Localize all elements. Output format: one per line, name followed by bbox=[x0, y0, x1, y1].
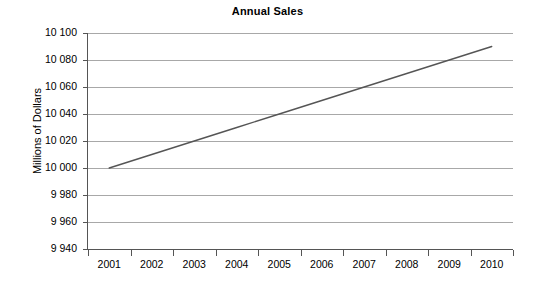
x-tick-6 bbox=[343, 250, 344, 256]
y-axis-label: 10 060 bbox=[17, 80, 77, 92]
x-axis-label: 2010 bbox=[467, 258, 517, 270]
x-tick-10 bbox=[513, 250, 514, 256]
x-tick-7 bbox=[386, 250, 387, 256]
y-axis-label: 9 940 bbox=[17, 242, 77, 254]
y-axis-label: 10 000 bbox=[17, 161, 77, 173]
y-axis-label: 10 100 bbox=[17, 26, 77, 38]
x-tick-5 bbox=[301, 250, 302, 256]
series-line-layer bbox=[88, 33, 513, 249]
plot-area bbox=[88, 33, 513, 249]
chart-container: Annual Sales Millions of Dollars 10 1001… bbox=[0, 0, 535, 290]
x-tick-0 bbox=[88, 250, 89, 256]
x-tick-2 bbox=[173, 250, 174, 256]
x-tick-1 bbox=[131, 250, 132, 256]
y-axis-label: 10 020 bbox=[17, 134, 77, 146]
x-tick-4 bbox=[258, 250, 259, 256]
y-axis-label: 10 080 bbox=[17, 53, 77, 65]
x-tick-3 bbox=[216, 250, 217, 256]
series-line-annual-sales bbox=[109, 47, 492, 169]
x-tick-9 bbox=[471, 250, 472, 256]
y-axis-label: 10 040 bbox=[17, 107, 77, 119]
y-axis-label: 9 980 bbox=[17, 188, 77, 200]
x-tick-8 bbox=[428, 250, 429, 256]
chart-title: Annual Sales bbox=[0, 5, 535, 17]
y-axis-label: 9 960 bbox=[17, 215, 77, 227]
